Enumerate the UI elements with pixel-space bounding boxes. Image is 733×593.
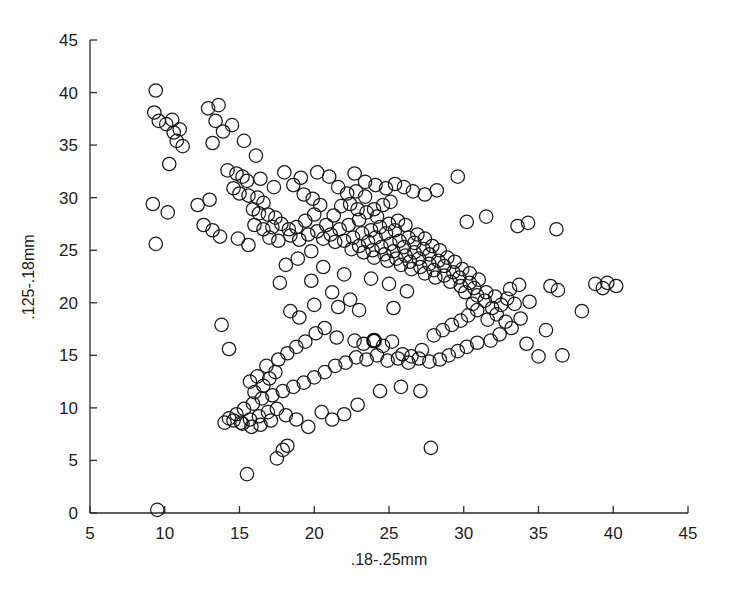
data-point-marker (272, 353, 285, 366)
data-point-marker (225, 118, 238, 131)
x-tick-label: 30 (454, 524, 473, 543)
data-point-marker (539, 323, 552, 336)
x-tick-label: 25 (380, 524, 399, 543)
data-point-marker (299, 214, 312, 227)
data-point-marker (456, 262, 469, 275)
data-point-marker (484, 334, 497, 347)
data-point-marker (373, 384, 386, 397)
data-point-marker (352, 213, 365, 226)
data-point-marker (348, 167, 361, 180)
x-tick-label: 20 (305, 524, 324, 543)
y-tick-label: 15 (59, 346, 78, 365)
data-point-marker (400, 285, 413, 298)
data-point-marker (508, 297, 521, 310)
data-point-marker (240, 467, 253, 480)
y-tick-group: 051015202530354045 (59, 31, 97, 523)
data-point-marker (352, 303, 365, 316)
data-point-marker (151, 503, 164, 516)
data-point-marker (367, 203, 380, 216)
data-point-marker (273, 276, 286, 289)
data-point-marker (364, 272, 377, 285)
data-point-marker (454, 314, 467, 327)
data-point-marker (512, 278, 525, 291)
data-point-marker (503, 282, 516, 295)
data-point-marker (315, 405, 328, 418)
data-point-marker (215, 318, 228, 331)
data-point-marker (260, 359, 273, 372)
data-point-marker (284, 304, 297, 317)
data-point-marker (391, 214, 404, 227)
data-point-marker (551, 283, 564, 296)
data-point-marker (317, 260, 330, 273)
data-point-marker (261, 405, 274, 418)
data-point-marker (149, 237, 162, 250)
data-point-marker (589, 277, 602, 290)
y-tick-label: 25 (59, 241, 78, 260)
y-tick-label: 30 (59, 189, 78, 208)
data-point-marker (532, 350, 545, 363)
data-point-marker (243, 375, 256, 388)
data-point-marker (414, 384, 427, 397)
data-point-marker (442, 349, 455, 362)
x-tick-label: 5 (85, 524, 94, 543)
data-point-marker (206, 136, 219, 149)
data-point-marker (152, 114, 165, 127)
data-point-marker (227, 182, 240, 195)
y-tick-label: 5 (69, 451, 78, 470)
x-tick-label: 35 (529, 524, 548, 543)
data-point-marker (451, 344, 464, 357)
data-point-marker (233, 187, 246, 200)
data-point-marker (575, 304, 588, 317)
data-point-marker (279, 258, 292, 271)
data-point-marker (337, 234, 350, 247)
x-tick-label: 15 (230, 524, 249, 543)
data-point-marker (297, 188, 310, 201)
data-point-marker (242, 238, 255, 251)
data-point-marker (302, 420, 315, 433)
y-tick-label: 20 (59, 294, 78, 313)
data-point-marker (281, 347, 294, 360)
data-point-marker (325, 286, 338, 299)
data-point-marker (479, 210, 492, 223)
data-point-marker (248, 218, 261, 231)
data-point-marker (399, 218, 412, 231)
data-point-marker (472, 273, 485, 286)
data-point-marker (520, 337, 533, 350)
data-point-marker (337, 268, 350, 281)
data-point-marker (254, 172, 267, 185)
data-point-marker (523, 295, 536, 308)
data-point-marker (382, 277, 395, 290)
data-point-marker (384, 195, 397, 208)
data-point-marker (441, 251, 454, 264)
data-point-marker (163, 157, 176, 170)
data-point-marker (348, 334, 361, 347)
data-point-marker (351, 398, 364, 411)
data-point-marker (308, 371, 321, 384)
data-point-marker (384, 237, 397, 250)
data-point-marker (249, 149, 262, 162)
data-point-marker (334, 199, 347, 212)
data-point-marker (550, 223, 563, 236)
data-point-marker (149, 84, 162, 97)
data-point-marker (406, 185, 419, 198)
data-point-marker (387, 301, 400, 314)
data-point-marker (291, 252, 304, 265)
data-point-marker (221, 164, 234, 177)
data-point-marker (287, 178, 300, 191)
data-point-marker (418, 188, 431, 201)
data-point-marker (305, 274, 318, 287)
x-tick-label: 45 (679, 524, 698, 543)
data-point-marker (426, 239, 439, 252)
data-point-marker (451, 170, 464, 183)
data-point-marker (385, 335, 398, 348)
axis-lines (90, 40, 688, 513)
data-point-marker (261, 208, 274, 221)
data-point-marker (293, 311, 306, 324)
data-point-marker (544, 279, 557, 292)
data-point-marker (610, 279, 623, 292)
data-point-marker (447, 266, 460, 279)
data-point-marker (411, 228, 424, 241)
data-point-marker (176, 139, 189, 152)
data-point-marker (267, 180, 280, 193)
data-point-marker (305, 245, 318, 258)
